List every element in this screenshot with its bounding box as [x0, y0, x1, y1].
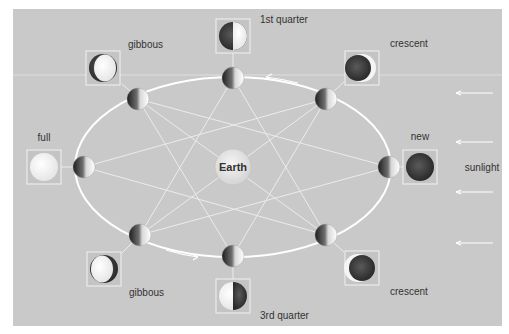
label-gibbous-top: gibbous [128, 39, 163, 50]
orbit-moon-top [222, 67, 244, 89]
phase-box-crescent-waxing [345, 51, 379, 85]
label-sunlight: sunlight [465, 162, 500, 173]
orbit-moon-lower-right [315, 224, 337, 246]
phase-box-third-quarter [216, 279, 250, 313]
phase-box-full [27, 150, 61, 184]
orbit-moon-upper-left [127, 88, 149, 110]
label-gibbous-bottom: gibbous [129, 287, 164, 298]
phase-box-gibbous-top [86, 51, 120, 85]
phase-box-new [403, 150, 437, 184]
phase-box-gibbous-bottom [87, 252, 121, 286]
label-first-quarter: 1st quarter [260, 14, 308, 25]
orbit-moon-upper-right [315, 88, 337, 110]
orbit-moon-bottom [222, 245, 244, 267]
phase-box-crescent-waning [344, 251, 379, 285]
label-third-quarter: 3rd quarter [260, 310, 310, 321]
earth: Earth [215, 149, 251, 185]
label-new: new [411, 131, 430, 142]
label-crescent-bottom: crescent [390, 286, 428, 297]
label-crescent-top: crescent [390, 38, 428, 49]
orbit-moon-lower-left [129, 224, 151, 246]
moon-phases-diagram: Earth 1st quarter crescent [0, 0, 509, 334]
earth-label: Earth [219, 161, 247, 173]
phase-box-first-quarter [216, 19, 250, 53]
orbit-moon-left [73, 156, 95, 178]
orbit-moon-right [378, 156, 400, 178]
label-full: full [38, 132, 51, 143]
